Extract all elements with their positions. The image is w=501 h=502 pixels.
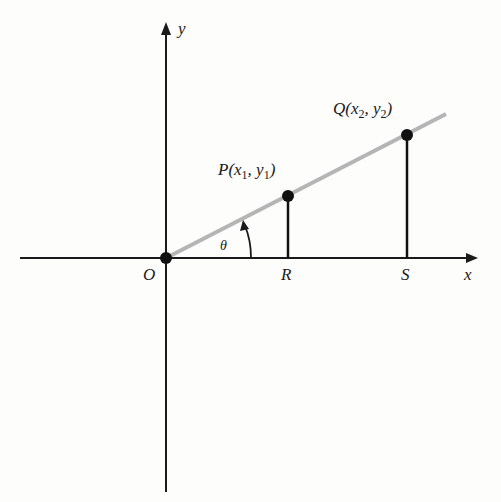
- point-P-label: P(x1, y1): [217, 160, 276, 182]
- angle-arrow-icon: [240, 220, 249, 231]
- point-P: [282, 190, 294, 202]
- origin-label: O: [143, 265, 155, 284]
- y-axis-arrow-icon: [161, 22, 171, 35]
- y-axis-label: y: [176, 19, 186, 38]
- point-Q-label: Q(x2, y2): [333, 99, 393, 121]
- origin-point: [160, 252, 172, 264]
- angle-label: θ: [220, 238, 227, 253]
- S-label: S: [401, 265, 410, 284]
- x-axis-label: x: [463, 265, 472, 284]
- x-axis-arrow-icon: [466, 253, 478, 263]
- coordinate-diagram: y x O θ R S P(x1, y1) Q(x2, y2): [0, 0, 501, 502]
- angle-arc: [245, 226, 251, 258]
- point-Q: [401, 129, 413, 141]
- R-label: R: [280, 265, 292, 284]
